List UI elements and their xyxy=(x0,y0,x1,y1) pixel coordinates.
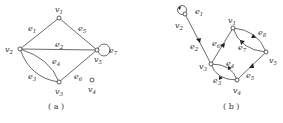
label-b-v3: v3 xyxy=(199,62,208,72)
arrow-b-e6-icon xyxy=(220,43,225,48)
arrow-b-e5-icon xyxy=(249,63,254,68)
vertex-a-v3 xyxy=(57,80,61,84)
label-a-e5: e5 xyxy=(78,24,87,34)
label-a-e1: e1 xyxy=(28,24,36,34)
caption-a: ( a ) xyxy=(48,102,64,111)
edge-a-e2 xyxy=(20,49,97,50)
vertex-b-v3 xyxy=(209,62,213,66)
caption-b: ( b ) xyxy=(223,102,239,111)
label-b-e5: e5 xyxy=(246,71,255,81)
label-a-e6: e6 xyxy=(74,72,83,82)
label-a-v1: v1 xyxy=(55,5,63,15)
label-b-e7: e7 xyxy=(238,43,247,53)
edge-a-e1 xyxy=(20,18,59,49)
label-a-e4: e4 xyxy=(52,57,61,67)
label-b-e2: e2 xyxy=(190,42,199,52)
label-b-v4: v4 xyxy=(233,86,242,96)
arrow-b-e2-icon xyxy=(196,38,201,43)
vertex-a-v4 xyxy=(90,78,94,82)
graph-b: v1 v2 v3 v4 v5 e1 e2 e3 e4 e5 e6 e7 e8 (… xyxy=(175,6,278,112)
label-b-v5: v5 xyxy=(269,56,278,66)
vertex-b-v4 xyxy=(235,78,239,82)
label-b-v2: v2 xyxy=(175,21,184,31)
label-a-v2: v2 xyxy=(5,45,14,55)
label-b-v1: v1 xyxy=(228,16,236,26)
label-a-v3: v3 xyxy=(55,87,64,97)
label-b-e6: e6 xyxy=(212,39,221,49)
vertex-a-v5 xyxy=(95,48,99,52)
label-a-e2: e2 xyxy=(55,40,64,50)
label-a-v5: v5 xyxy=(94,55,103,65)
vertex-b-v2 xyxy=(183,12,187,16)
graph-a: v1 v2 v3 v4 v5 e1 e2 e3 e4 e5 e6 e7 ( a … xyxy=(5,5,118,111)
label-b-e8: e8 xyxy=(258,28,267,38)
label-a-e7: e7 xyxy=(109,46,118,56)
label-a-v4: v4 xyxy=(88,85,97,95)
vertex-a-v2 xyxy=(18,47,22,51)
vertex-b-v5 xyxy=(264,50,268,54)
graph-figure: v1 v2 v3 v4 v5 e1 e2 e3 e4 e5 e6 e7 ( a … xyxy=(0,0,283,123)
label-b-e1: e1 xyxy=(195,7,203,17)
label-b-e4: e4 xyxy=(226,59,235,69)
vertex-b-v1 xyxy=(231,26,235,30)
vertex-a-v1 xyxy=(57,16,61,20)
edge-a-e5 xyxy=(59,18,97,50)
label-a-e3: e3 xyxy=(28,72,37,82)
